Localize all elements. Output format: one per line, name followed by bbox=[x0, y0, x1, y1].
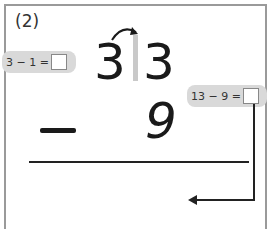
guide-line-horizontal bbox=[196, 199, 255, 201]
place-value-divider bbox=[133, 35, 138, 81]
guide-line-vertical bbox=[253, 104, 255, 200]
top-tens-digit: 3 bbox=[94, 37, 126, 87]
answer-box-ones[interactable] bbox=[243, 88, 259, 104]
hint-text-tens: 3 − 1 = bbox=[6, 56, 49, 69]
hint-text-ones: 13 − 9 = bbox=[191, 90, 241, 103]
hint-bubble-ones: 13 − 9 = bbox=[187, 85, 267, 107]
answer-box-tens[interactable] bbox=[51, 54, 67, 70]
answer-line bbox=[29, 161, 249, 163]
minus-sign bbox=[40, 128, 76, 133]
top-ones-digit: 3 bbox=[143, 37, 175, 87]
hint-bubble-tens: 3 − 1 = bbox=[2, 51, 76, 73]
bottom-ones-digit: 9 bbox=[145, 96, 177, 146]
problem-number: (2) bbox=[15, 11, 39, 31]
arrow-left-icon bbox=[188, 195, 197, 205]
